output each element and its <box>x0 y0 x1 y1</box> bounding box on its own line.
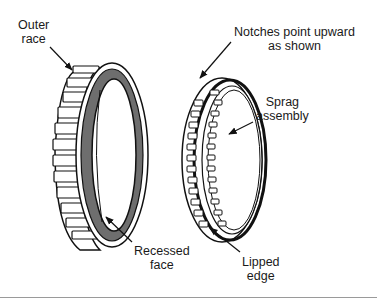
notches-line1: Notches point upward <box>234 25 355 39</box>
recessed-face-label: Recessed face <box>134 244 190 272</box>
outer-race-illustration <box>53 63 148 250</box>
lipped-line1: Lipped <box>242 255 280 269</box>
bottom-rule <box>0 297 377 298</box>
outer-race-line2: race <box>18 32 49 46</box>
outer-race-line1: Outer <box>18 18 49 32</box>
sprag-assembly-label: Sprag assembly <box>256 95 309 123</box>
outer-race-label: Outer race <box>18 18 49 46</box>
recessed-line2: face <box>134 258 190 272</box>
notches-line2: as shown <box>234 39 355 53</box>
recessed-line1: Recessed <box>134 244 190 258</box>
lipped-line2: edge <box>242 269 280 283</box>
notches-label: Notches point upward as shown <box>234 25 355 53</box>
sprag-line1: Sprag <box>256 95 309 109</box>
lipped-edge-label: Lipped edge <box>242 255 280 283</box>
sprag-line2: assembly <box>256 109 309 123</box>
sprag-assembly-illustration <box>182 78 266 242</box>
